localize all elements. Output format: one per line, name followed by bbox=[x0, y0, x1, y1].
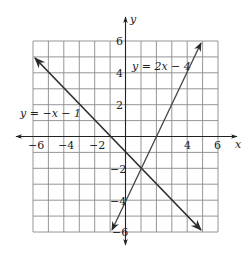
equation-label-line1: y = −x − 1 bbox=[19, 107, 81, 120]
y-tick-label: 2 bbox=[116, 99, 123, 112]
x-tick-label: −2 bbox=[89, 139, 105, 152]
y-tick-label: −6 bbox=[112, 226, 128, 239]
x-tick-label: 6 bbox=[214, 139, 221, 152]
coordinate-plane: y x −6 −4 −2 4 6 6 4 2 −2 −4 −6 y = 2x −… bbox=[0, 0, 251, 257]
x-tick-label: −6 bbox=[28, 139, 44, 152]
equation-label-line2: y = 2x − 4 bbox=[131, 60, 191, 73]
y-axis-label: y bbox=[129, 13, 137, 26]
x-tick-label: −4 bbox=[58, 139, 74, 152]
x-axis-label: x bbox=[235, 138, 242, 151]
y-tick-label: −4 bbox=[110, 195, 126, 208]
x-tick-label: 4 bbox=[184, 139, 191, 152]
y-tick-label: 6 bbox=[116, 35, 123, 48]
y-tick-label: −2 bbox=[110, 163, 126, 176]
y-tick-label: 4 bbox=[116, 67, 123, 80]
